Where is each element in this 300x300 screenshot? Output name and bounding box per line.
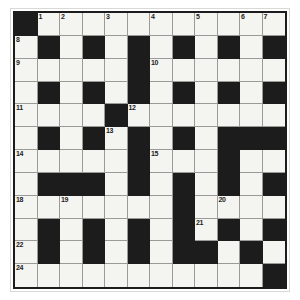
- grid-open-cell[interactable]: [15, 173, 38, 196]
- grid-open-cell[interactable]: [38, 264, 61, 287]
- grid-open-cell[interactable]: [150, 219, 173, 242]
- grid-open-cell[interactable]: 5: [195, 13, 218, 36]
- grid-open-cell[interactable]: 12: [128, 104, 151, 127]
- grid-open-cell[interactable]: [195, 264, 218, 287]
- grid-open-cell[interactable]: 20: [218, 196, 241, 219]
- grid-open-cell[interactable]: [240, 196, 263, 219]
- grid-open-cell[interactable]: 1: [38, 13, 61, 36]
- grid-open-cell[interactable]: 22: [15, 241, 38, 264]
- grid-open-cell[interactable]: [15, 127, 38, 150]
- grid-open-cell[interactable]: 2: [60, 13, 83, 36]
- grid-open-cell[interactable]: [128, 196, 151, 219]
- grid-open-cell[interactable]: 11: [15, 104, 38, 127]
- grid-open-cell[interactable]: [38, 196, 61, 219]
- grid-open-cell[interactable]: [195, 104, 218, 127]
- grid-open-cell[interactable]: [60, 82, 83, 105]
- grid-open-cell[interactable]: [195, 59, 218, 82]
- grid-open-cell[interactable]: [240, 219, 263, 242]
- grid-open-cell[interactable]: [105, 241, 128, 264]
- grid-open-cell[interactable]: [105, 59, 128, 82]
- grid-open-cell[interactable]: [240, 150, 263, 173]
- grid-open-cell[interactable]: [60, 59, 83, 82]
- grid-open-cell[interactable]: [83, 59, 106, 82]
- grid-open-cell[interactable]: [218, 241, 241, 264]
- grid-open-cell[interactable]: [105, 82, 128, 105]
- grid-open-cell[interactable]: [15, 219, 38, 242]
- grid-open-cell[interactable]: [60, 36, 83, 59]
- grid-open-cell[interactable]: [83, 13, 106, 36]
- grid-open-cell[interactable]: [218, 59, 241, 82]
- grid-open-cell[interactable]: [240, 36, 263, 59]
- grid-open-cell[interactable]: [173, 59, 196, 82]
- grid-open-cell[interactable]: 13: [105, 127, 128, 150]
- grid-open-cell[interactable]: 15: [150, 150, 173, 173]
- grid-open-cell[interactable]: [240, 264, 263, 287]
- grid-open-cell[interactable]: [195, 36, 218, 59]
- grid-open-cell[interactable]: [150, 241, 173, 264]
- grid-open-cell[interactable]: [60, 127, 83, 150]
- grid-open-cell[interactable]: 18: [15, 196, 38, 219]
- grid-open-cell[interactable]: [263, 241, 286, 264]
- grid-open-cell[interactable]: [60, 219, 83, 242]
- grid-open-cell[interactable]: 7: [263, 13, 286, 36]
- grid-open-cell[interactable]: [105, 196, 128, 219]
- grid-open-cell[interactable]: [173, 13, 196, 36]
- grid-open-cell[interactable]: [150, 82, 173, 105]
- grid-open-cell[interactable]: 9: [15, 59, 38, 82]
- grid-open-cell[interactable]: 24: [15, 264, 38, 287]
- grid-open-cell[interactable]: [240, 82, 263, 105]
- grid-open-cell[interactable]: [240, 59, 263, 82]
- grid-open-cell[interactable]: [105, 150, 128, 173]
- crossword-grid[interactable]: 123456789101112131415181920212224: [13, 11, 287, 289]
- grid-open-cell[interactable]: [38, 59, 61, 82]
- grid-open-cell[interactable]: [150, 196, 173, 219]
- grid-open-cell[interactable]: 19: [60, 196, 83, 219]
- grid-open-cell[interactable]: [263, 150, 286, 173]
- grid-open-cell[interactable]: [15, 82, 38, 105]
- grid-open-cell[interactable]: [105, 264, 128, 287]
- grid-open-cell[interactable]: [83, 196, 106, 219]
- grid-open-cell[interactable]: [105, 36, 128, 59]
- grid-open-cell[interactable]: [150, 173, 173, 196]
- grid-open-cell[interactable]: [263, 59, 286, 82]
- grid-open-cell[interactable]: [60, 264, 83, 287]
- grid-open-cell[interactable]: [218, 13, 241, 36]
- grid-open-cell[interactable]: [105, 173, 128, 196]
- grid-open-cell[interactable]: [128, 264, 151, 287]
- grid-open-cell[interactable]: [150, 264, 173, 287]
- grid-open-cell[interactable]: [60, 241, 83, 264]
- grid-open-cell[interactable]: [195, 150, 218, 173]
- grid-open-cell[interactable]: [240, 104, 263, 127]
- grid-open-cell[interactable]: 8: [15, 36, 38, 59]
- grid-open-cell[interactable]: [195, 173, 218, 196]
- grid-open-cell[interactable]: [218, 104, 241, 127]
- grid-open-cell[interactable]: 4: [150, 13, 173, 36]
- grid-open-cell[interactable]: [150, 127, 173, 150]
- grid-open-cell[interactable]: [60, 150, 83, 173]
- grid-open-cell[interactable]: [263, 196, 286, 219]
- grid-open-cell[interactable]: 3: [105, 13, 128, 36]
- grid-open-cell[interactable]: [173, 264, 196, 287]
- grid-open-cell[interactable]: [128, 13, 151, 36]
- grid-open-cell[interactable]: 21: [195, 219, 218, 242]
- grid-open-cell[interactable]: [195, 82, 218, 105]
- grid-open-cell[interactable]: [83, 150, 106, 173]
- grid-open-cell[interactable]: [83, 104, 106, 127]
- grid-open-cell[interactable]: [150, 104, 173, 127]
- grid-open-cell[interactable]: [83, 264, 106, 287]
- grid-open-cell[interactable]: [240, 173, 263, 196]
- grid-open-cell[interactable]: [173, 150, 196, 173]
- grid-open-cell[interactable]: [173, 104, 196, 127]
- grid-open-cell[interactable]: [150, 36, 173, 59]
- grid-open-cell[interactable]: [195, 127, 218, 150]
- grid-open-cell[interactable]: [38, 150, 61, 173]
- grid-open-cell[interactable]: 10: [150, 59, 173, 82]
- grid-open-cell[interactable]: 6: [240, 13, 263, 36]
- grid-open-cell[interactable]: 14: [15, 150, 38, 173]
- grid-open-cell[interactable]: [60, 104, 83, 127]
- grid-open-cell[interactable]: [38, 104, 61, 127]
- grid-open-cell[interactable]: [195, 196, 218, 219]
- grid-open-cell[interactable]: [263, 104, 286, 127]
- grid-open-cell[interactable]: [218, 264, 241, 287]
- grid-open-cell[interactable]: [105, 219, 128, 242]
